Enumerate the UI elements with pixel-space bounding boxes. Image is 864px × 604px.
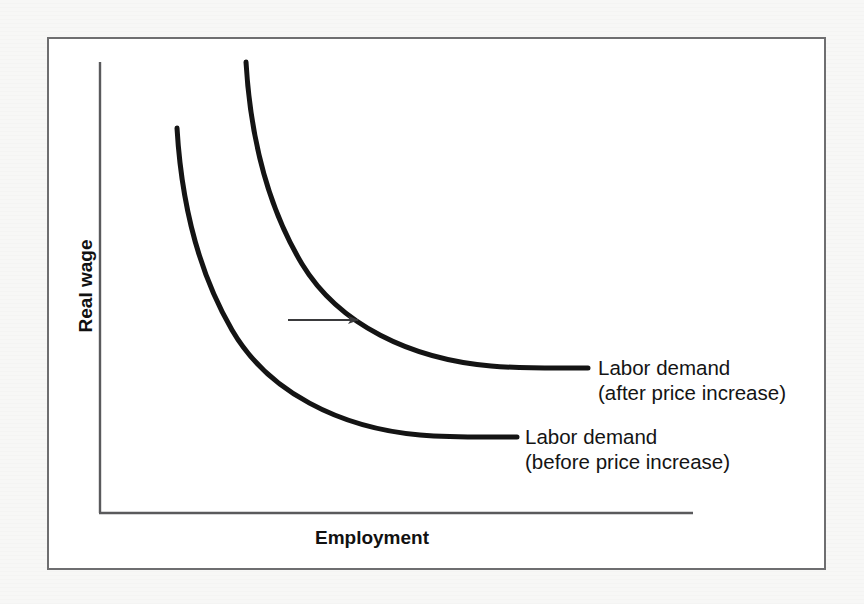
curve-label-after: Labor demand (after price increase) [598, 356, 786, 404]
curve-label-before-line1: Labor demand [525, 425, 657, 448]
labor-demand-curve-before [177, 128, 517, 437]
y-axis-title: Real wage [75, 240, 96, 333]
x-axis-title: Employment [315, 527, 430, 548]
curve-label-before-line2: (before price increase) [525, 450, 730, 473]
figure-root: Real wage Employment Labor demand (after… [0, 0, 864, 604]
labor-demand-chart: Real wage Employment Labor demand (after… [0, 0, 864, 604]
axis-title-group: Real wage Employment [75, 240, 430, 548]
curve-label-before: Labor demand (before price increase) [525, 425, 730, 473]
curves-group [177, 62, 588, 437]
curve-label-after-line1: Labor demand [598, 356, 730, 379]
labor-demand-curve-after [246, 62, 588, 368]
curve-label-after-line2: (after price increase) [598, 381, 786, 404]
